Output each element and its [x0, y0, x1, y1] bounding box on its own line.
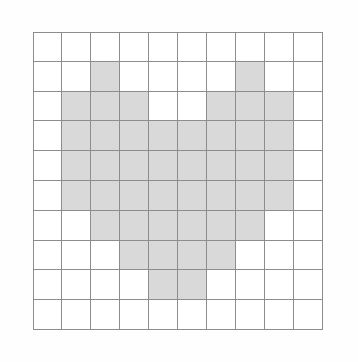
grid-cell-r2-c7[interactable]	[236, 92, 265, 122]
grid-cell-r8-c5[interactable]	[178, 270, 207, 300]
grid-cell-r0-c4[interactable]	[149, 32, 178, 62]
grid-cell-r7-c7[interactable]	[236, 241, 265, 271]
grid-cell-r3-c1[interactable]	[62, 121, 91, 151]
grid-cell-r5-c8[interactable]	[265, 181, 294, 211]
grid-cell-r9-c8[interactable]	[265, 300, 294, 330]
grid-cell-r9-c2[interactable]	[91, 300, 120, 330]
grid-cell-r7-c6[interactable]	[207, 241, 236, 271]
grid-cell-r0-c3[interactable]	[120, 32, 149, 62]
grid-cell-r9-c1[interactable]	[62, 300, 91, 330]
grid-cell-r9-c7[interactable]	[236, 300, 265, 330]
grid-cell-r2-c1[interactable]	[62, 92, 91, 122]
grid-cell-r8-c3[interactable]	[120, 270, 149, 300]
grid-cell-r5-c3[interactable]	[120, 181, 149, 211]
grid-cell-r4-c2[interactable]	[91, 151, 120, 181]
grid-cell-r5-c7[interactable]	[236, 181, 265, 211]
grid-cell-r9-c5[interactable]	[178, 300, 207, 330]
grid-cell-r3-c5[interactable]	[178, 121, 207, 151]
grid-cell-r0-c7[interactable]	[236, 32, 265, 62]
grid-cell-r5-c6[interactable]	[207, 181, 236, 211]
grid-cell-r2-c8[interactable]	[265, 92, 294, 122]
grid-cell-r6-c8[interactable]	[265, 211, 294, 241]
grid-cell-r7-c5[interactable]	[178, 241, 207, 271]
grid-cell-r8-c0[interactable]	[33, 270, 62, 300]
grid-cell-r9-c6[interactable]	[207, 300, 236, 330]
grid-cell-r8-c2[interactable]	[91, 270, 120, 300]
grid-cell-r3-c8[interactable]	[265, 121, 294, 151]
grid-cell-r7-c0[interactable]	[33, 241, 62, 271]
grid-cell-r1-c2[interactable]	[91, 62, 120, 92]
grid-cell-r6-c4[interactable]	[149, 211, 178, 241]
grid-cell-r6-c6[interactable]	[207, 211, 236, 241]
grid-cell-r5-c2[interactable]	[91, 181, 120, 211]
grid-cell-r4-c9[interactable]	[294, 151, 323, 181]
grid-cell-r4-c6[interactable]	[207, 151, 236, 181]
grid-cell-r2-c5[interactable]	[178, 92, 207, 122]
grid-cell-r1-c3[interactable]	[120, 62, 149, 92]
grid-cell-r5-c0[interactable]	[33, 181, 62, 211]
grid-cell-r2-c4[interactable]	[149, 92, 178, 122]
grid-cell-r9-c3[interactable]	[120, 300, 149, 330]
grid-cell-r9-c0[interactable]	[33, 300, 62, 330]
grid-cell-r5-c1[interactable]	[62, 181, 91, 211]
grid-cell-r0-c9[interactable]	[294, 32, 323, 62]
grid-cell-r0-c8[interactable]	[265, 32, 294, 62]
grid-cell-r4-c1[interactable]	[62, 151, 91, 181]
grid-cell-r3-c9[interactable]	[294, 121, 323, 151]
grid-cell-r6-c3[interactable]	[120, 211, 149, 241]
grid-cell-r8-c1[interactable]	[62, 270, 91, 300]
grid-cell-r4-c3[interactable]	[120, 151, 149, 181]
grid-cell-r0-c0[interactable]	[33, 32, 62, 62]
grid-cell-r7-c4[interactable]	[149, 241, 178, 271]
grid-cell-r6-c7[interactable]	[236, 211, 265, 241]
grid-cell-r5-c5[interactable]	[178, 181, 207, 211]
grid-cell-r8-c7[interactable]	[236, 270, 265, 300]
grid-cell-r3-c4[interactable]	[149, 121, 178, 151]
grid-cell-r4-c4[interactable]	[149, 151, 178, 181]
grid-cell-r4-c7[interactable]	[236, 151, 265, 181]
grid-cell-r0-c1[interactable]	[62, 32, 91, 62]
grid-cell-r4-c8[interactable]	[265, 151, 294, 181]
grid-cell-r1-c0[interactable]	[33, 62, 62, 92]
grid-cell-r8-c9[interactable]	[294, 270, 323, 300]
grid-cell-r6-c1[interactable]	[62, 211, 91, 241]
grid-cell-r3-c2[interactable]	[91, 121, 120, 151]
grid-cell-r8-c4[interactable]	[149, 270, 178, 300]
grid-cell-r3-c6[interactable]	[207, 121, 236, 151]
grid-cell-r2-c9[interactable]	[294, 92, 323, 122]
grid-cell-r0-c5[interactable]	[178, 32, 207, 62]
grid-cell-r3-c0[interactable]	[33, 121, 62, 151]
grid-cell-r6-c5[interactable]	[178, 211, 207, 241]
grid-cell-r1-c6[interactable]	[207, 62, 236, 92]
grid-cell-r2-c6[interactable]	[207, 92, 236, 122]
grid-cell-r6-c2[interactable]	[91, 211, 120, 241]
grid-cell-r6-c0[interactable]	[33, 211, 62, 241]
grid-cell-r1-c1[interactable]	[62, 62, 91, 92]
grid-cell-r1-c5[interactable]	[178, 62, 207, 92]
grid-cell-r4-c5[interactable]	[178, 151, 207, 181]
grid-cell-r4-c0[interactable]	[33, 151, 62, 181]
grid-cell-r0-c6[interactable]	[207, 32, 236, 62]
grid-cell-r7-c3[interactable]	[120, 241, 149, 271]
grid-cell-r1-c7[interactable]	[236, 62, 265, 92]
grid-cell-r6-c9[interactable]	[294, 211, 323, 241]
grid-cell-r2-c2[interactable]	[91, 92, 120, 122]
grid-cell-r7-c9[interactable]	[294, 241, 323, 271]
grid-cell-r1-c9[interactable]	[294, 62, 323, 92]
grid-cell-r7-c1[interactable]	[62, 241, 91, 271]
grid-cell-r5-c4[interactable]	[149, 181, 178, 211]
grid-cell-r3-c7[interactable]	[236, 121, 265, 151]
grid-cell-r0-c2[interactable]	[91, 32, 120, 62]
grid-cell-r8-c8[interactable]	[265, 270, 294, 300]
grid-cell-r8-c6[interactable]	[207, 270, 236, 300]
grid-cell-r9-c9[interactable]	[294, 300, 323, 330]
grid-cell-r5-c9[interactable]	[294, 181, 323, 211]
grid-cell-r2-c0[interactable]	[33, 92, 62, 122]
grid-cell-r2-c3[interactable]	[120, 92, 149, 122]
grid-cell-r1-c4[interactable]	[149, 62, 178, 92]
grid-cell-r9-c4[interactable]	[149, 300, 178, 330]
grid-cell-r1-c8[interactable]	[265, 62, 294, 92]
grid-cell-r3-c3[interactable]	[120, 121, 149, 151]
grid-cell-r7-c8[interactable]	[265, 241, 294, 271]
grid-cell-r7-c2[interactable]	[91, 241, 120, 271]
